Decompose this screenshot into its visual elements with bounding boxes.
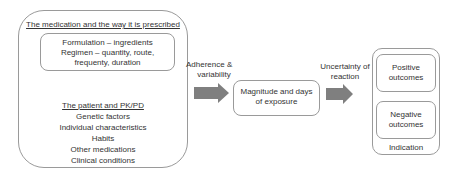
patient-factor: Habits [20, 134, 186, 144]
patient-factor: Clinical conditions [20, 156, 186, 166]
positive-line-2: outcomes [376, 73, 436, 83]
indication-label: Indication [372, 143, 440, 153]
prescription-line-3: frequenty, duration [40, 58, 175, 68]
patient-heading: The patient and PK/PD [20, 101, 186, 111]
negative-line-2: outcomes [376, 120, 436, 130]
adherence-label-2: variability [186, 70, 242, 80]
patient-factor: Genetic factors [20, 112, 186, 122]
negative-line-1: Negative [376, 110, 436, 120]
exposure-line-1: Magnitude and days [233, 87, 320, 97]
uncertainty-label-2: reaction [314, 72, 376, 82]
patient-factor: Other medications [20, 145, 186, 155]
prescription-line-1: Formulation – ingredients [40, 38, 175, 48]
exposure-line-2: of exposure [233, 97, 320, 107]
prescription-line-2: Regimen – quantity, route, [40, 48, 175, 58]
right-arrow-icon [326, 84, 354, 104]
positive-line-1: Positive [376, 63, 436, 73]
patient-factor: Individual characteristics [20, 123, 186, 133]
adherence-label-1: Adherence & [186, 60, 242, 70]
medication-heading: The medication and the way it is prescri… [20, 20, 186, 30]
right-arrow-icon [194, 83, 230, 103]
uncertainty-label-1: Uncertainty of [314, 62, 376, 72]
